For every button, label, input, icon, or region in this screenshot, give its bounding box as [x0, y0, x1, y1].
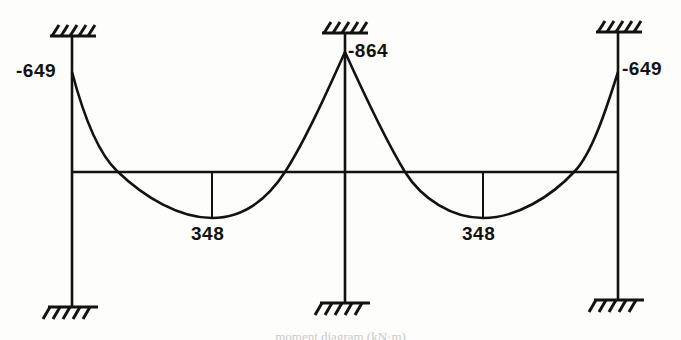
label-left-span-moment: 348	[191, 224, 224, 243]
support-fixed-bottom-left	[43, 307, 98, 319]
label-right-support-moment: -649	[622, 59, 662, 78]
diagram-canvas	[0, 0, 681, 340]
support-fixed-bottom-center	[315, 303, 370, 315]
support-fixed-top-right	[596, 21, 642, 32]
moment-curve-right-span	[345, 52, 618, 218]
support-fixed-top-left	[50, 25, 96, 36]
support-fixed-bottom-right	[589, 300, 644, 312]
label-right-span-moment: 348	[462, 224, 495, 243]
label-left-support-moment: -649	[16, 61, 56, 80]
caption-fragment: moment diagram (kN·m)	[0, 330, 681, 340]
moment-curve-left-span	[72, 52, 345, 218]
support-fixed-top-center	[322, 22, 368, 33]
label-center-support-moment: -864	[348, 41, 388, 60]
bending-moment-diagram-figure: -649 -864 -649 348 348 moment diagram (k…	[0, 0, 681, 340]
